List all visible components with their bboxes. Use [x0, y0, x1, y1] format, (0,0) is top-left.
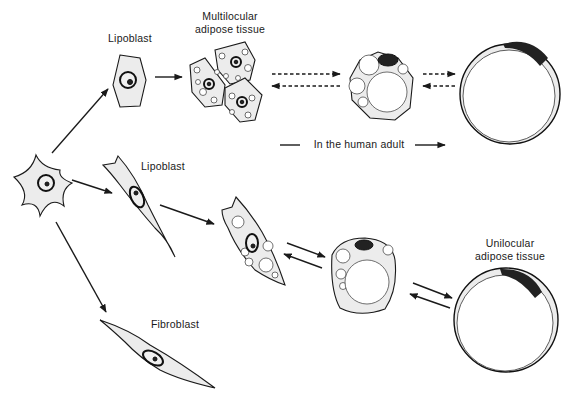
- arrow-to-lipoblast-mid: [72, 180, 112, 193]
- label-human-adult: In the human adult: [305, 138, 413, 151]
- arrow-to-fibroblast: [56, 222, 106, 312]
- label-multilocular: Multilocular adipose tissue: [180, 10, 280, 36]
- mesenchymal-cell: [14, 155, 72, 216]
- unilocular-adipocyte-top: [460, 42, 560, 144]
- label-multilocular-line2: adipose tissue: [180, 23, 280, 36]
- paucilocular-adipocyte: [349, 52, 413, 120]
- lipoblast-polygonal-cell: [113, 55, 146, 107]
- differentiation-diagram: [0, 0, 569, 396]
- arrow-to-lipoblast-top: [52, 89, 108, 153]
- label-unilocular-line2: adipose tissue: [465, 250, 555, 263]
- label-unilocular-line1: Unilocular: [465, 237, 555, 250]
- lipoblast-with-droplets: [222, 197, 285, 285]
- arrow-left-mid-1: [284, 254, 322, 268]
- arrow-right-mid-2: [413, 283, 452, 298]
- arrow-right-mid-1: [287, 243, 325, 257]
- multilocular-adipose-cells: [190, 42, 262, 122]
- label-fibroblast: Fibroblast: [140, 318, 210, 331]
- label-lipoblast-mid: Lipoblast: [133, 160, 193, 173]
- multivacuolar-adipocyte: [332, 238, 396, 313]
- label-lipoblast-top: Lipoblast: [100, 32, 160, 45]
- label-multilocular-line1: Multilocular: [180, 10, 280, 23]
- label-unilocular: Unilocular adipose tissue: [465, 237, 555, 263]
- arrow-to-lipoblast-droplets: [160, 205, 214, 224]
- unilocular-adipocyte-bottom: [454, 268, 558, 372]
- arrow-left-mid-2: [410, 294, 450, 308]
